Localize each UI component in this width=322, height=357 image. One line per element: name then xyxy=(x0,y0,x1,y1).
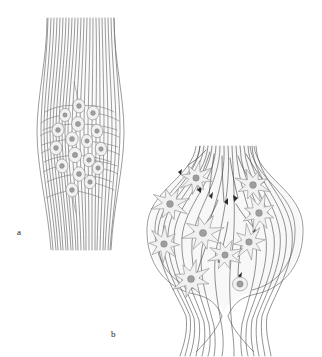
cell-nucleus xyxy=(69,136,74,141)
cell-nucleus xyxy=(63,113,68,118)
figure-canvas: a b xyxy=(0,0,322,357)
panel-label-a: a xyxy=(17,228,21,237)
cell-body xyxy=(233,277,248,291)
panel-a xyxy=(37,18,124,250)
panel-label-b: b xyxy=(111,330,116,339)
cell-nucleus xyxy=(167,201,174,208)
cell-body xyxy=(68,147,81,162)
cell-nucleus xyxy=(59,163,64,168)
cell-nucleus xyxy=(72,152,77,157)
cell-nucleus xyxy=(193,175,199,181)
cell-nucleus xyxy=(246,239,253,246)
panel-b xyxy=(147,146,303,356)
cell-nucleus xyxy=(237,281,243,287)
cell-nucleus xyxy=(75,121,81,127)
cell-nucleus xyxy=(256,210,263,217)
cell-nucleus xyxy=(222,252,228,258)
cell-nucleus xyxy=(76,171,81,176)
cell-nucleus xyxy=(199,229,206,236)
cell-nucleus xyxy=(250,182,257,189)
cell-nucleus xyxy=(188,276,195,283)
cell-nucleus xyxy=(85,139,90,144)
scientific-illustration xyxy=(0,0,322,357)
cell-nucleus xyxy=(161,241,168,248)
